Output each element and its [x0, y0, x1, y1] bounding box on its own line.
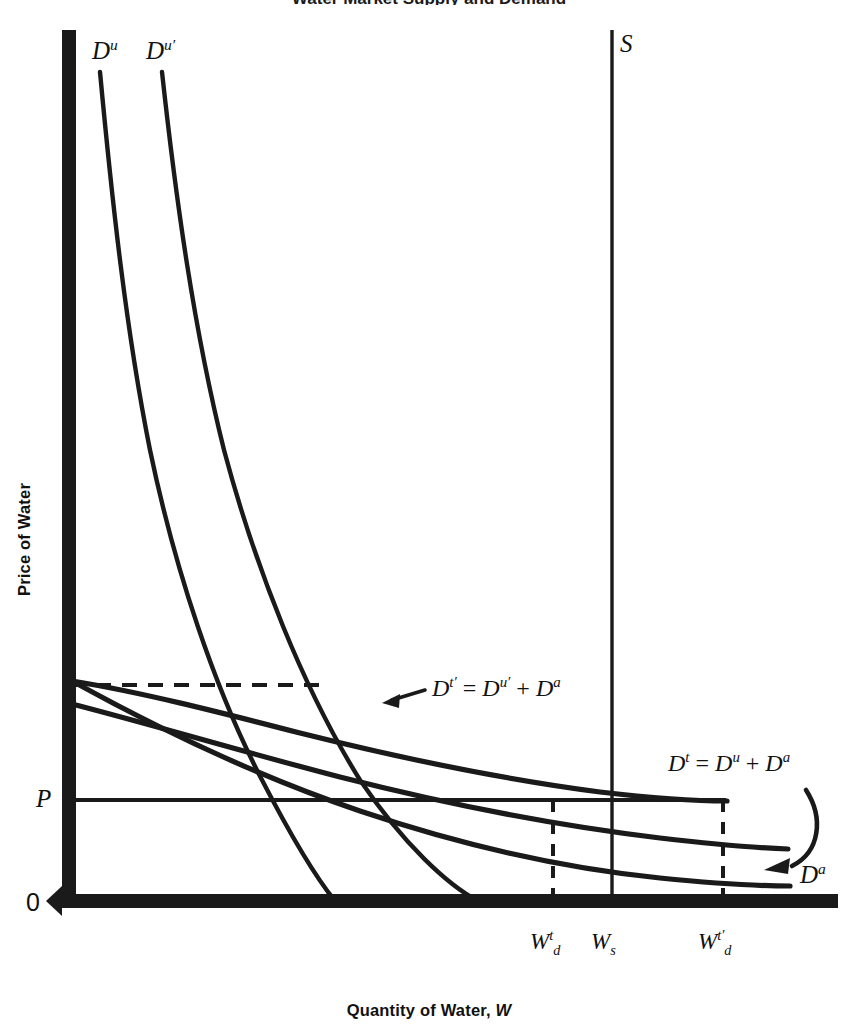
label-total-demand-equation: Dt = Du + Da: [668, 751, 790, 775]
curve-urban-demand-shifted: [162, 72, 478, 901]
chart-canvas: [0, 0, 858, 1028]
x-axis-title-text: Quantity of Water,: [347, 1001, 491, 1019]
curve-urban-demand: [100, 72, 335, 901]
label-urban-demand-shifted-base: D: [146, 37, 164, 64]
eq2-t2-base: D: [536, 675, 553, 701]
curve-total-demand: [72, 704, 788, 849]
eq2-t1-base: D: [482, 675, 499, 701]
label-supply: S: [620, 31, 633, 56]
eq1-equals: =: [695, 750, 709, 776]
label-urban-demand-sup: u: [110, 36, 118, 53]
water-market-supply-demand-figure: Water Market Supply and Demand: [0, 0, 858, 1028]
tick-label-Wdt: Wtd: [530, 930, 560, 953]
label-urban-demand: Du: [92, 38, 118, 63]
tick-Ws-base: W: [591, 929, 610, 954]
x-axis-title-variable: W: [496, 1001, 512, 1019]
eq2-equals: =: [463, 675, 477, 701]
tick-Wdt-base: W: [530, 929, 549, 954]
eq1-t1-sup: u: [732, 749, 739, 765]
label-agricultural-demand: Da: [800, 862, 826, 887]
x-axis-title: Quantity of Water, W: [0, 1001, 858, 1020]
label-price-P: P: [36, 786, 51, 811]
eq1-lhs-sup: t: [685, 749, 689, 765]
annotation-arrow-total-demand-shifted: [382, 690, 425, 708]
eq1-plus: +: [746, 750, 760, 776]
eq1-lhs-base: D: [668, 750, 685, 776]
label-total-demand-shifted-equation: Dt′ = Du′ + Da: [432, 676, 561, 700]
eq1-t1-base: D: [715, 750, 732, 776]
tick-Ws-sub: s: [610, 942, 616, 958]
label-agricultural-demand-base: D: [800, 861, 818, 888]
label-urban-demand-shifted-sup: u′: [164, 36, 175, 53]
tick-Wdtp-sup: t′: [717, 927, 724, 943]
eq2-lhs-base: D: [432, 675, 449, 701]
label-urban-demand-shifted: Du′: [146, 38, 175, 63]
eq2-plus: +: [516, 675, 530, 701]
eq1-t2-base: D: [765, 750, 782, 776]
eq2-t1-sup: u′: [500, 674, 511, 690]
axes-group: [62, 30, 838, 908]
label-agricultural-demand-sup: a: [818, 860, 826, 877]
eq2-lhs-sup: t′: [449, 674, 456, 690]
eq2-t2-sup: a: [553, 674, 560, 690]
x-axis-origin-marker: [46, 886, 62, 916]
y-axis: [62, 30, 76, 908]
y-axis-title: Price of Water: [15, 450, 34, 630]
label-urban-demand-base: D: [92, 37, 110, 64]
tick-Wdtp-sub: d: [724, 942, 731, 958]
curve-agricultural-demand: [72, 681, 790, 886]
eq1-t2-sup: a: [783, 749, 790, 765]
tick-Wdt-sub: d: [553, 942, 560, 958]
tick-label-Wdt-prime: Wt′d: [698, 930, 731, 953]
tick-label-Ws: Ws: [591, 930, 616, 953]
tick-Wdtp-base: W: [698, 929, 717, 954]
label-origin: 0: [26, 890, 40, 915]
